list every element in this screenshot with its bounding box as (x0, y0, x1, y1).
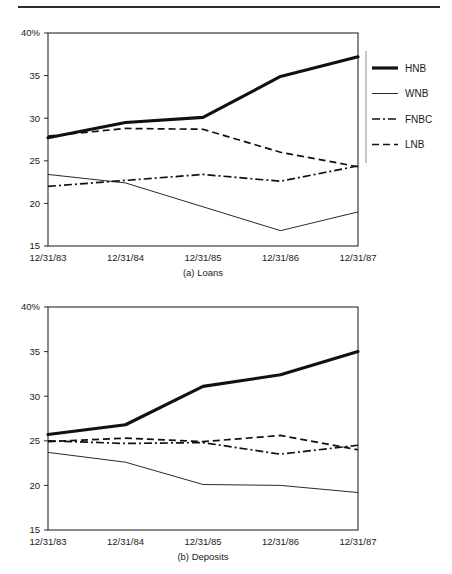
series-line-fnbc (48, 166, 358, 186)
legend-label-fnbc: FNBC (405, 114, 432, 125)
chart-caption: (b) Deposits (177, 551, 228, 562)
series-line-hnb (48, 57, 358, 138)
plot-frame (48, 307, 358, 530)
x-axis-tick-label: 12/31/85 (185, 536, 222, 547)
x-axis-tick-label: 12/31/84 (107, 536, 144, 547)
x-axis-tick-label: 12/31/85 (185, 252, 222, 263)
x-axis-tick-label: 12/31/84 (107, 252, 144, 263)
y-axis-tick-label: 40% (21, 301, 41, 312)
legend-label-hnb: HNB (405, 63, 426, 74)
figure-page: 40%353025201512/31/8312/31/8412/31/8512/… (0, 0, 452, 574)
y-axis-tick-label: 35 (29, 346, 40, 357)
chart-loans: 40%353025201512/31/8312/31/8412/31/8512/… (0, 22, 452, 284)
series-line-wnb (48, 174, 358, 230)
y-axis-tick-label: 30 (29, 113, 40, 124)
chart-loans-canvas: 40%353025201512/31/8312/31/8412/31/8512/… (0, 22, 452, 284)
y-axis-tick-label: 40% (21, 27, 41, 38)
x-axis-tick-label: 12/31/83 (30, 536, 67, 547)
x-axis-tick-label: 12/31/87 (340, 252, 377, 263)
top-horizontal-rule (18, 6, 440, 8)
x-axis-tick-label: 12/31/83 (30, 252, 67, 263)
legend-label-lnb: LNB (405, 139, 425, 150)
y-axis-tick-label: 20 (29, 198, 40, 209)
y-axis-tick-label: 15 (29, 240, 40, 251)
chart-deposits-canvas: 40%353025201512/31/8312/31/8412/31/8512/… (0, 296, 452, 568)
series-line-hnb (48, 352, 358, 435)
y-axis-tick-label: 25 (29, 155, 40, 166)
y-axis-tick-label: 30 (29, 391, 40, 402)
y-axis-tick-label: 25 (29, 435, 40, 446)
x-axis-tick-label: 12/31/86 (262, 252, 299, 263)
series-line-fnbc (48, 441, 358, 454)
x-axis-tick-label: 12/31/87 (340, 536, 377, 547)
series-line-lnb (48, 128, 358, 166)
chart-deposits: 40%353025201512/31/8312/31/8412/31/8512/… (0, 296, 452, 568)
legend-label-wnb: WNB (405, 88, 429, 99)
plot-frame (48, 33, 358, 246)
y-axis-tick-label: 35 (29, 70, 40, 81)
y-axis-tick-label: 20 (29, 480, 40, 491)
x-axis-tick-label: 12/31/86 (262, 536, 299, 547)
series-line-wnb (48, 452, 358, 492)
y-axis-tick-label: 15 (29, 524, 40, 535)
chart-caption: (a) Loans (183, 267, 223, 278)
